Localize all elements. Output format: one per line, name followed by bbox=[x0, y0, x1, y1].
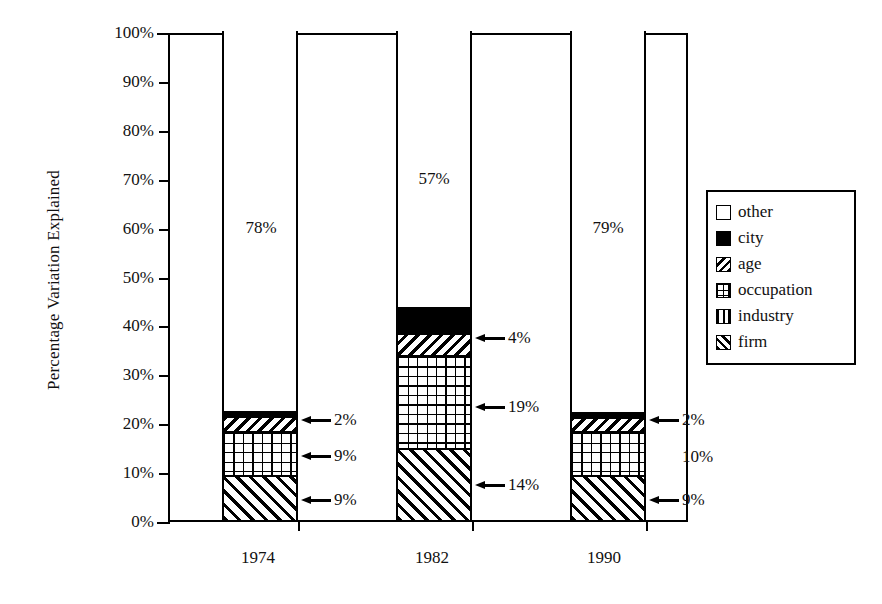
x-label-1974: 1974 bbox=[241, 548, 275, 568]
callout-1974-occupation-text: 9% bbox=[334, 446, 357, 466]
callout-1982-age-text: 4% bbox=[508, 328, 531, 348]
segment-1982-firm[interactable] bbox=[398, 449, 470, 520]
y-tick-label-60: 60% bbox=[123, 219, 154, 239]
y-tick-20 bbox=[159, 424, 170, 426]
y-tick-100 bbox=[157, 33, 170, 35]
y-tick-label-70: 70% bbox=[123, 170, 154, 190]
legend-item-industry[interactable]: industry bbox=[716, 303, 846, 329]
arrow-left-icon bbox=[475, 481, 505, 490]
segment-1982-age[interactable] bbox=[398, 334, 470, 356]
callout-1990-firm-text: 9% bbox=[682, 490, 705, 510]
legend-swatch-other-icon bbox=[716, 205, 731, 220]
legend-label-other: other bbox=[738, 202, 773, 222]
bar-1990[interactable] bbox=[570, 31, 646, 520]
legend-swatch-age-icon bbox=[716, 257, 731, 272]
chart-root: Percentage Variation Explained 100% 90% … bbox=[0, 0, 882, 604]
x-label-1990: 1990 bbox=[587, 548, 621, 568]
arrow-left-icon bbox=[475, 403, 505, 412]
callout-1974-firm-text: 9% bbox=[334, 490, 357, 510]
arrow-left-icon bbox=[649, 496, 679, 505]
segment-1990-firm[interactable] bbox=[572, 476, 644, 520]
legend-item-other[interactable]: other bbox=[716, 199, 846, 225]
legend-item-age[interactable]: age bbox=[716, 251, 846, 277]
callout-1982-age: 4% bbox=[475, 328, 531, 348]
callout-1990-age: 2% bbox=[649, 410, 705, 430]
legend-label-industry: industry bbox=[738, 306, 794, 326]
label-1990-other: 79% bbox=[592, 218, 623, 238]
legend-label-firm: firm bbox=[738, 332, 767, 352]
bar-1982[interactable] bbox=[396, 31, 472, 520]
plot-area: 100% 90% 80% 70% 60% 50% 40% 30% 20% 10%… bbox=[168, 33, 688, 522]
callout-1982-firm: 14% bbox=[475, 475, 539, 495]
arrow-left-icon bbox=[301, 452, 331, 461]
callout-1990-age-text: 2% bbox=[682, 410, 705, 430]
y-tick-label-100: 100% bbox=[114, 23, 154, 43]
segment-1974-age[interactable] bbox=[224, 417, 296, 432]
arrow-left-icon bbox=[475, 334, 505, 343]
arrow-left-icon bbox=[301, 416, 331, 425]
callout-1974-occupation: 9% bbox=[301, 446, 357, 466]
legend-label-occupation: occupation bbox=[738, 280, 813, 300]
x-tick-1 bbox=[298, 520, 300, 531]
legend-swatch-firm-icon bbox=[716, 335, 731, 350]
legend-swatch-city-icon bbox=[716, 231, 731, 246]
segment-1990-other[interactable] bbox=[572, 31, 644, 310]
y-tick-90 bbox=[159, 82, 170, 84]
callout-1990-occupation-text: 10% bbox=[682, 447, 713, 467]
arrow-left-icon bbox=[649, 416, 679, 425]
segment-1982-occupation[interactable] bbox=[398, 356, 470, 449]
legend-item-occupation[interactable]: occupation bbox=[716, 277, 846, 303]
x-tick-3 bbox=[646, 520, 648, 531]
y-axis-title: Percentage Variation Explained bbox=[44, 130, 64, 430]
segment-1974-other[interactable] bbox=[224, 31, 296, 305]
x-label-1982: 1982 bbox=[415, 548, 449, 568]
y-tick-0 bbox=[157, 522, 170, 524]
segment-1990-age[interactable] bbox=[572, 418, 644, 432]
callout-1974-age-text: 2% bbox=[334, 410, 357, 430]
arrow-left-icon bbox=[301, 496, 331, 505]
legend-swatch-occupation-icon bbox=[716, 283, 731, 298]
legend-label-age: age bbox=[738, 254, 762, 274]
bar-1974[interactable] bbox=[222, 31, 298, 520]
legend: other city age occupation industry firm bbox=[706, 190, 856, 365]
segment-1974-firm[interactable] bbox=[224, 476, 296, 520]
y-tick-70 bbox=[159, 180, 170, 182]
y-tick-label-10: 10% bbox=[123, 463, 154, 483]
y-tick-60 bbox=[159, 229, 170, 231]
callout-1982-firm-text: 14% bbox=[508, 475, 539, 495]
y-tick-80 bbox=[159, 131, 170, 133]
label-1974-other: 78% bbox=[245, 218, 276, 238]
y-tick-label-0: 0% bbox=[131, 512, 154, 532]
y-tick-30 bbox=[159, 375, 170, 377]
legend-item-firm[interactable]: firm bbox=[716, 329, 846, 355]
callout-1974-age: 2% bbox=[301, 410, 357, 430]
label-1982-other: 57% bbox=[418, 169, 449, 189]
legend-item-city[interactable]: city bbox=[716, 225, 846, 251]
y-tick-label-40: 40% bbox=[123, 316, 154, 336]
x-tick-2 bbox=[472, 520, 474, 531]
y-tick-label-50: 50% bbox=[123, 268, 154, 288]
callout-1990-occupation: 10% bbox=[649, 447, 713, 467]
callout-1974-firm: 9% bbox=[301, 490, 357, 510]
y-tick-label-80: 80% bbox=[123, 121, 154, 141]
segment-1974-occupation[interactable] bbox=[224, 432, 296, 476]
y-tick-label-20: 20% bbox=[123, 414, 154, 434]
legend-swatch-industry-icon bbox=[716, 309, 731, 324]
segment-1990-occupation[interactable] bbox=[572, 432, 644, 476]
y-tick-50 bbox=[159, 278, 170, 280]
callout-1982-occupation: 19% bbox=[475, 397, 539, 417]
segment-1982-city[interactable] bbox=[398, 307, 470, 334]
legend-label-city: city bbox=[738, 228, 764, 248]
y-tick-40 bbox=[159, 326, 170, 328]
y-tick-label-30: 30% bbox=[123, 365, 154, 385]
callout-1990-firm: 9% bbox=[649, 490, 705, 510]
callout-1982-occupation-text: 19% bbox=[508, 397, 539, 417]
y-tick-label-90: 90% bbox=[123, 72, 154, 92]
y-tick-10 bbox=[159, 473, 170, 475]
